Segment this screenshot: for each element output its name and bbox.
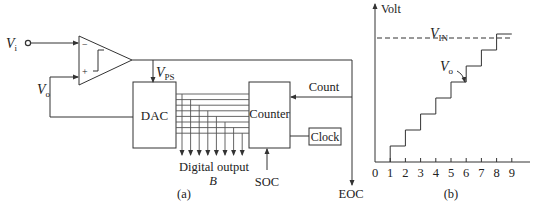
x-tick-label: 2	[402, 166, 408, 180]
x-tick-label: 5	[448, 166, 454, 180]
x-ticks	[390, 158, 512, 162]
vin-label: VIN	[430, 26, 449, 43]
dac-label: DAC	[141, 108, 168, 123]
x-tick-label: 8	[493, 166, 499, 180]
panel-b: Volt 0123456789 VIN Vo (b)	[372, 2, 530, 201]
comparator-minus: −	[82, 39, 88, 50]
panel-b-label: (b)	[444, 187, 459, 201]
comparator-plus: +	[82, 66, 88, 77]
hysteresis-icon	[93, 50, 104, 71]
digital-bus	[176, 94, 249, 155]
vo-pointer-arrow	[457, 71, 465, 82]
vi-label: Vi	[6, 36, 18, 53]
y-axis-label: Volt	[381, 2, 401, 16]
panel-a: Vi − + Vo VPS DAC Counter Digital output…	[6, 36, 364, 201]
x-tick-label: 6	[463, 166, 469, 180]
eoc-label: EOC	[339, 187, 364, 201]
x-tick-label: 3	[417, 166, 423, 180]
adc-diagram: Vi − + Vo VPS DAC Counter Digital output…	[0, 0, 537, 207]
vo-label: Vo	[37, 82, 51, 99]
x-tick-label: 1	[387, 166, 393, 180]
x-tick-label: 7	[478, 166, 484, 180]
digital-output-symbol: B	[209, 174, 217, 188]
panel-a-label: (a)	[177, 187, 191, 201]
vps-label: VPS	[156, 65, 175, 82]
feedback-wire	[50, 77, 133, 117]
vo-staircase	[390, 34, 512, 162]
vo-curve-label: Vo	[440, 59, 454, 76]
count-label: Count	[309, 80, 340, 94]
x-tick-label: 0	[372, 166, 378, 180]
counter-label: Counter	[249, 107, 290, 121]
x-tick-label: 9	[509, 166, 515, 180]
input-terminal	[25, 40, 30, 45]
x-tick-labels: 0123456789	[372, 166, 515, 180]
x-tick-label: 4	[433, 166, 440, 180]
soc-label: SOC	[255, 175, 279, 189]
clock-label: Clock	[311, 130, 340, 144]
diagram-canvas: Vi − + Vo VPS DAC Counter Digital output…	[0, 0, 537, 207]
digital-output-label: Digital output	[179, 160, 249, 174]
